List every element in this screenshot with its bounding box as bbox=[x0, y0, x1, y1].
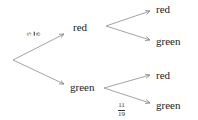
node-green: green bbox=[70, 82, 94, 93]
probability-root-red: 5 8 bbox=[26, 32, 42, 36]
probability-green-green: 11 19 bbox=[118, 102, 125, 118]
denominator: 8 bbox=[35, 32, 42, 36]
numerator: 11 bbox=[118, 102, 125, 109]
node-red: red bbox=[73, 22, 87, 33]
branch-green-red bbox=[104, 75, 150, 88]
numerator: 5 bbox=[26, 32, 33, 36]
node-red-red: red bbox=[156, 4, 170, 15]
branch-green-green bbox=[104, 88, 150, 103]
branch-red-green bbox=[106, 26, 150, 40]
node-green-red: red bbox=[156, 70, 170, 81]
branch-root-red bbox=[13, 34, 64, 60]
node-green-green: green bbox=[156, 100, 180, 111]
node-red-green: green bbox=[156, 36, 180, 47]
branch-red-red bbox=[106, 11, 150, 26]
branch-root-green bbox=[13, 60, 64, 84]
denominator: 19 bbox=[118, 111, 125, 118]
